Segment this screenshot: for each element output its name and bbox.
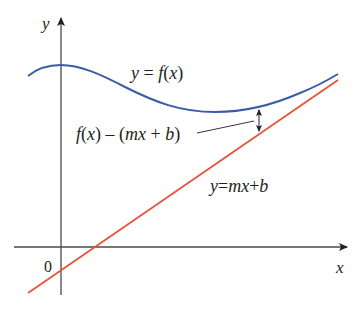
curve-label-y: y — [129, 63, 139, 83]
line-label-plus: + — [249, 176, 259, 196]
curve-label-eq: = — [139, 63, 158, 83]
difference-label-x2: x — [137, 124, 146, 144]
difference-label-x: x — [86, 124, 95, 144]
difference-label-close: ) — [174, 124, 180, 145]
difference-leader-line — [197, 121, 254, 133]
difference-label-m: m — [125, 124, 138, 144]
difference-label-plus: + — [146, 124, 165, 144]
difference-label-b: b — [165, 124, 174, 144]
line-label-m: m — [228, 176, 241, 196]
curve-label-paren-close: ) — [177, 63, 183, 84]
line-label-b: b — [259, 176, 268, 196]
y-axis-label: y — [40, 14, 50, 33]
line-label-y: y — [208, 176, 218, 196]
line-label: y=mx+b — [208, 176, 268, 196]
difference-label-minus: – ( — [101, 124, 125, 145]
line-label-eq: = — [218, 176, 228, 196]
linear-asymptote-line — [28, 80, 338, 293]
x-axis-label: x — [335, 258, 344, 277]
curve-label-x: x — [168, 63, 177, 83]
function-line-diagram: y x 0 y = f(x) f(x) – (mx + b) y=mx+b — [0, 0, 363, 316]
difference-label: f(x) – (mx + b) — [76, 124, 180, 145]
origin-label: 0 — [44, 258, 52, 275]
curve-label: y = f(x) — [129, 63, 183, 84]
line-label-x: x — [240, 176, 249, 196]
